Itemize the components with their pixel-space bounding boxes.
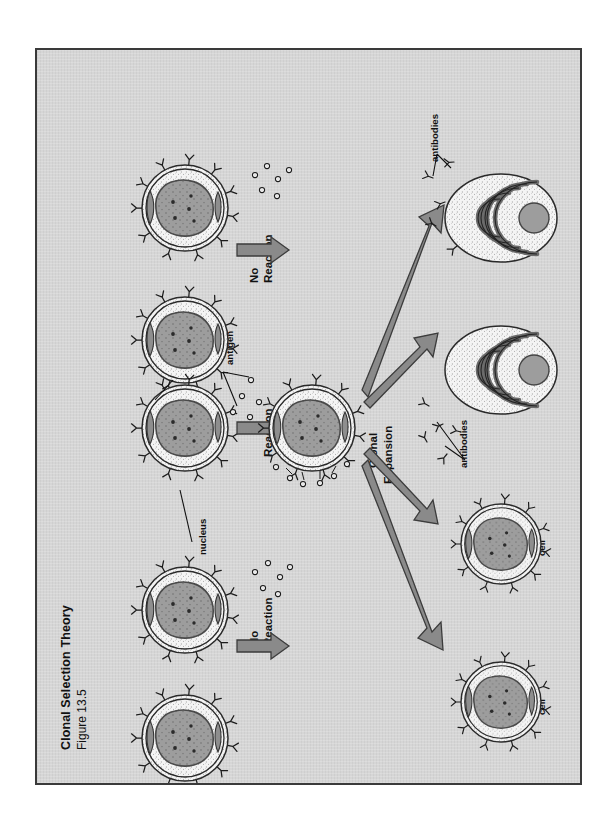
memory-cell-1 bbox=[451, 494, 550, 593]
leader-antigen bbox=[223, 372, 249, 406]
plasma-cell-2 bbox=[445, 326, 557, 414]
row-middle-activated-cell bbox=[259, 374, 366, 486]
antigen-cluster-bottom bbox=[252, 560, 292, 596]
row-bottom-right-cell bbox=[132, 684, 239, 785]
antigen-cluster-top bbox=[252, 163, 291, 198]
row-bottom-left-cell bbox=[132, 556, 239, 662]
page: Clonal Selection Theory Figure 13.5 anti… bbox=[0, 0, 615, 823]
leader-antibodies-upper bbox=[433, 154, 451, 176]
arrow-top-row bbox=[237, 237, 289, 263]
plasma-cell-1 bbox=[445, 174, 557, 262]
figure-panel: Clonal Selection Theory Figure 13.5 anti… bbox=[35, 48, 582, 785]
figure-artwork bbox=[37, 50, 582, 785]
antigen-cluster-middle bbox=[230, 377, 261, 419]
memory-cell-2 bbox=[451, 652, 550, 751]
row-top-left-cell bbox=[132, 154, 239, 260]
leader-nucleus bbox=[180, 490, 192, 542]
row-top-right-cell bbox=[132, 286, 239, 392]
arrow-bottom-row bbox=[237, 633, 289, 659]
row-middle-left-cell bbox=[132, 374, 239, 480]
clonal-expansion-arrows bbox=[362, 205, 444, 650]
leader-antibodies-lower bbox=[437, 422, 465, 460]
